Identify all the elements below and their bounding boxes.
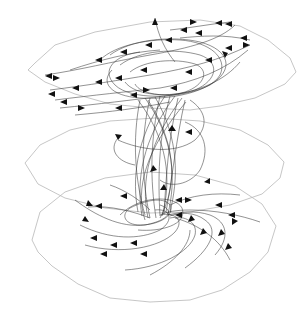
- bottom-slice-plane: [32, 172, 276, 302]
- arrow-icon: [95, 203, 102, 209]
- arrow-icon: [150, 165, 157, 172]
- arrow-icon: [232, 218, 238, 225]
- arrow-icon: [120, 49, 127, 55]
- arrow-icon: [140, 251, 147, 257]
- arrow-icon: [243, 42, 250, 48]
- arrow-icon: [225, 243, 232, 250]
- arrow-icon: [185, 69, 192, 75]
- arrow-icon: [188, 215, 195, 222]
- middle-slice-plane: [25, 118, 284, 213]
- arrow-icon: [100, 251, 107, 257]
- arrow-icon: [225, 45, 232, 51]
- arrow-icon: [145, 42, 152, 48]
- arrow-icon: [60, 99, 67, 105]
- arrow-icon: [45, 73, 52, 79]
- arrow-icon: [180, 27, 187, 33]
- arrow-icon: [72, 85, 79, 91]
- arrow-icon: [130, 240, 137, 246]
- arrowheads: [45, 18, 250, 257]
- slice-planes: [25, 20, 296, 302]
- arrow-icon: [86, 200, 93, 206]
- arrow-icon: [215, 20, 222, 26]
- arrow-icon: [95, 79, 102, 85]
- bottom-swirl-streamlines: [75, 185, 260, 275]
- arrow-icon: [115, 134, 122, 140]
- arrow-icon: [168, 125, 176, 131]
- arrow-icon: [195, 30, 202, 36]
- arrow-icon: [140, 67, 147, 73]
- arrow-icon: [165, 37, 172, 43]
- top-swirl-streamlines: [45, 18, 250, 149]
- arrow-icon: [240, 35, 247, 41]
- arrow-icon: [120, 193, 127, 199]
- arrow-icon: [53, 75, 60, 81]
- arrow-icon: [185, 129, 192, 135]
- arrow-icon: [48, 91, 55, 97]
- vortex-streamline-diagram: [0, 0, 308, 312]
- arrow-icon: [110, 242, 117, 248]
- arrow-icon: [90, 235, 97, 241]
- arrow-icon: [218, 229, 225, 236]
- arrow-icon: [82, 216, 89, 222]
- arrow-icon: [204, 178, 210, 184]
- arrow-icon: [228, 212, 235, 218]
